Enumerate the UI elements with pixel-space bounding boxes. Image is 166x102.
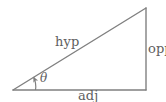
opposite-label: opp xyxy=(148,42,166,55)
theta-angle-label: θ xyxy=(40,72,47,84)
right-triangle-shape xyxy=(0,0,166,102)
trigonometry-diagram: hyp opp adj θ xyxy=(0,0,166,102)
angle-arc xyxy=(34,77,36,90)
hypotenuse-line xyxy=(13,8,146,90)
hypotenuse-label: hyp xyxy=(55,35,79,48)
adjacent-label: adj xyxy=(78,89,98,102)
